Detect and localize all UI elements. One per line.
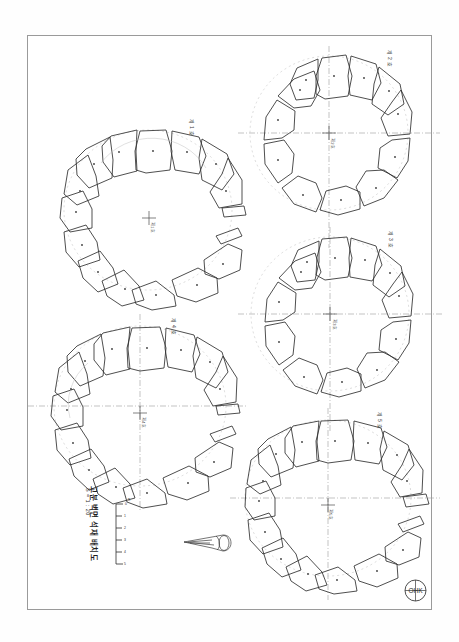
registration-stamp: OHK — [403, 578, 428, 603]
scale-bar: 0 1 2 3 4 5 m — [108, 500, 138, 568]
drawing-sheet: 제 1 호 제1호 — [0, 0, 459, 642]
pointed-artifact — [182, 528, 232, 558]
figure-label-mid-right: 제 3 호 — [388, 231, 395, 248]
figure-bot-left: 제 4 호 제4호 — [48, 318, 243, 508]
drawing-scale-note: S = 1 : 20 — [85, 488, 91, 516]
scale-tick-2: 2 — [124, 526, 126, 530]
figure-label-top-right: 제 2 호 — [387, 50, 394, 67]
figure-label-bot-left: 제 4 호 — [171, 318, 178, 335]
scale-tick-1: 1 — [124, 514, 126, 518]
figure-center-caption-mid-right: 제3호 — [332, 319, 338, 330]
figure-center-caption-bot-left: 제4호 — [141, 417, 147, 428]
figure-label-top-left: 제 1 호 — [189, 119, 196, 136]
stamp-letters: OHK — [408, 587, 423, 594]
figure-label-bot-right: 제 5 호 — [377, 412, 384, 429]
figure-center-caption-bot-right: 제5호 — [328, 509, 334, 520]
scale-unit-label: m — [127, 498, 132, 502]
scale-tick-4: 4 — [124, 550, 126, 554]
scale-tick-0: 0 — [125, 502, 127, 506]
figure-mid-right: 제 3 호 제3호 — [250, 235, 435, 420]
figure-center-caption-top-left: 제1호 — [150, 222, 156, 233]
scale-tick-3: 3 — [124, 538, 126, 542]
figure-top-right: 제 2 호 제2호 — [248, 52, 433, 237]
scale-tick-5: 5 — [124, 562, 126, 566]
figure-top-left: 제 1 호 제1호 — [56, 118, 246, 308]
figure-bot-right: 제 5 호 제5호 — [244, 414, 434, 594]
figure-center-caption-top-right: 제2호 — [330, 138, 336, 149]
